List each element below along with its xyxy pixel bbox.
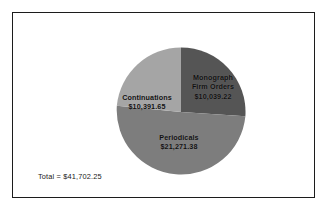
chart-frame-border: Monograph Firm Orders $10,039.22 Continu…: [12, 12, 315, 198]
slice-label-continuations: Continuations $10,391.65: [111, 93, 183, 112]
slice-label-periodicals-line1: Periodicals: [138, 133, 220, 142]
slice-label-continuations-line1: Continuations: [111, 93, 183, 102]
slice-label-monograph-line2: Firm Orders: [181, 82, 245, 91]
slice-value-monograph: $10,039.22: [181, 92, 245, 101]
pie-chart-figure: Monograph Firm Orders $10,039.22 Continu…: [0, 0, 329, 212]
slice-value-periodicals: $21,271.38: [138, 142, 220, 151]
slice-label-periodicals: Periodicals $21,271.38: [138, 133, 220, 152]
slice-label-monograph-line1: Monograph: [181, 73, 245, 82]
pie-svg: [116, 47, 246, 177]
total-label: Total = $41,702.25: [38, 172, 102, 182]
slice-label-monograph: Monograph Firm Orders $10,039.22: [181, 73, 245, 101]
pie-chart-graphic: [116, 47, 246, 177]
slice-value-continuations: $10,391.65: [111, 102, 183, 111]
